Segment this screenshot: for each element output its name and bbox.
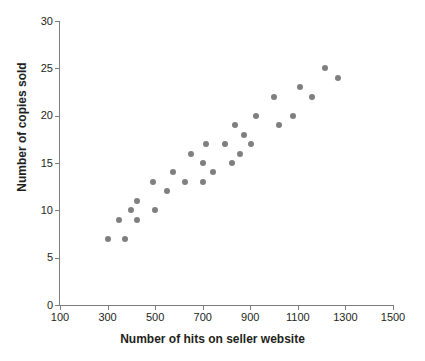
data-point [200,179,206,185]
data-point [182,179,188,185]
data-point [309,94,315,100]
data-point [116,217,122,223]
data-point [232,122,238,128]
data-point [322,65,328,71]
y-tick-mark [55,210,59,211]
plot-area [60,21,393,305]
data-point [248,141,254,147]
data-point [290,113,296,119]
x-tick-label: 100 [51,312,69,323]
y-tick-label: 15 [41,158,53,169]
y-tick-mark [55,305,59,306]
x-tick-label: 300 [98,312,116,323]
x-tick-label: 500 [146,312,164,323]
y-tick-mark [55,68,59,69]
data-point [170,169,176,175]
data-point [276,122,282,128]
x-tick-mark [203,306,204,310]
data-point [134,198,140,204]
x-tick-label: 1300 [333,312,357,323]
x-axis-line [59,305,394,306]
y-tick-mark [55,258,59,259]
x-tick-mark [155,306,156,310]
data-point [128,207,134,213]
x-tick-label: 1100 [286,312,310,323]
data-point [271,94,277,100]
data-point [297,84,303,90]
data-point [229,160,235,166]
data-point [210,169,216,175]
y-tick-label: 10 [41,205,53,216]
x-tick-label: 700 [194,312,212,323]
data-point [105,236,111,242]
y-tick-label: 25 [41,63,53,74]
x-tick-mark [60,306,61,310]
y-tick-mark [55,116,59,117]
x-tick-mark [250,306,251,310]
data-point [241,132,247,138]
y-tick-mark [55,21,59,22]
y-axis-title: Number of copies sold [15,47,29,207]
data-point [237,151,243,157]
data-point [188,151,194,157]
x-tick-mark [393,306,394,310]
data-point [150,179,156,185]
y-tick-label: 0 [47,300,53,311]
data-point [253,113,259,119]
data-point [335,75,341,81]
data-point [134,217,140,223]
data-point [200,160,206,166]
y-tick-label: 30 [41,16,53,27]
data-point [222,141,228,147]
data-point [152,207,158,213]
data-point [164,188,170,194]
y-tick-label: 5 [47,252,53,263]
x-tick-mark [108,306,109,310]
x-axis-title: Number of hits on seller website [0,332,425,346]
x-tick-mark [345,306,346,310]
x-tick-label: 1500 [381,312,405,323]
data-point [122,236,128,242]
x-tick-label: 900 [241,312,259,323]
y-tick-label: 20 [41,110,53,121]
y-tick-mark [55,163,59,164]
scatter-chart: 051015202530 100300500700900110013001500… [0,0,425,361]
x-tick-mark [298,306,299,310]
data-point [203,141,209,147]
